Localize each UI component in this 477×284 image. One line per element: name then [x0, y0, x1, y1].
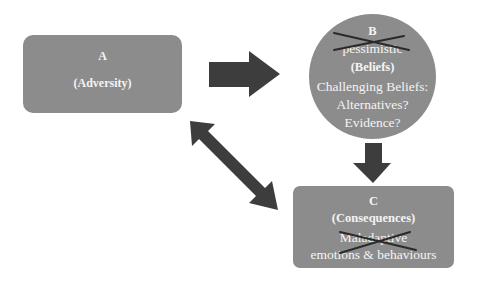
- down-arrow-icon: [353, 143, 391, 183]
- node-b-crossed-word-wrap: pessimistic: [309, 41, 436, 57]
- node-b-challenge-line-3: Evidence?: [309, 115, 436, 131]
- node-b-beliefs: B pessimistic (Beliefs) Challenging Beli…: [309, 14, 436, 139]
- node-c-letter: C: [293, 194, 454, 209]
- node-b-label: (Beliefs): [309, 60, 436, 75]
- node-c-label: (Consequences): [293, 211, 454, 226]
- node-a-adversity: A (Adversity): [23, 35, 182, 113]
- node-c-detail: emotions & behaviours: [293, 247, 454, 263]
- node-a-label: (Adversity): [23, 76, 182, 91]
- node-a-letter: A: [23, 49, 182, 64]
- node-b-letter: B: [309, 24, 436, 39]
- right-arrow-icon: [209, 51, 280, 97]
- node-b-crossed-word: pessimistic: [343, 41, 403, 57]
- node-c-crossed-word-wrap: Maladaptive: [293, 230, 454, 246]
- double-headed-arrow-icon: [190, 121, 278, 210]
- node-c-consequences: C (Consequences) Maladaptive emotions & …: [293, 186, 454, 268]
- node-c-crossed-word: Maladaptive: [340, 230, 407, 246]
- node-b-challenge-line-1: Challenging Beliefs:: [309, 79, 436, 95]
- node-b-challenge-line-2: Alternatives?: [309, 97, 436, 113]
